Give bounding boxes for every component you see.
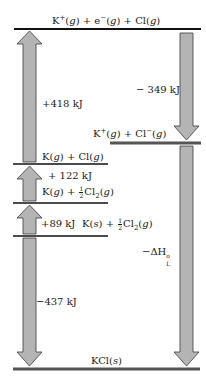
level-label-k-g-half-cl2: K(g) + 12Cl2(g) — [42, 186, 114, 202]
arrow-up-icon — [17, 205, 42, 234]
arrow-label-electron-affinity: − 349 kJ — [136, 84, 180, 95]
level-label-k-plus-e-cl: K+(g) + e−(g) + Cl(g) — [52, 13, 160, 26]
arrow-down-icon — [174, 146, 199, 366]
level-label-kcl-s: KCl(s) — [91, 355, 122, 366]
level-label-k-s-half-cl2: K(s) + 12Cl2(g) — [82, 218, 153, 234]
arrow-label-dissociation: + 122 kJ — [48, 170, 92, 181]
arrow-label-sublimation: +89 kJ — [41, 218, 75, 229]
arrow-label-ionization: +418 kJ — [42, 98, 83, 109]
arrow-up-icon — [17, 31, 42, 162]
arrow-label-lattice: −ΔHoL — [142, 246, 171, 257]
level-label-k-g-cl-g: K(g) + Cl(g) — [42, 151, 104, 162]
arrow-up-icon — [17, 166, 42, 201]
level-label-k-plus-cl-minus: K+(g) + Cl−(g) — [93, 126, 166, 139]
arrow-label-formation: −437 kJ — [36, 296, 77, 307]
